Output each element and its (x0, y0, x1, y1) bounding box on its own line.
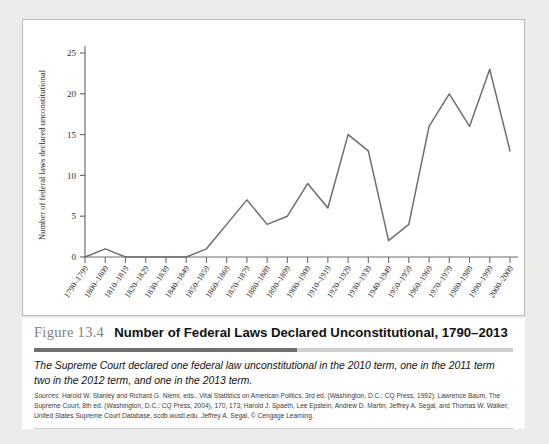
sources-text: Harold W. Stanley and Richard G. Niemi, … (34, 392, 509, 419)
y-axis-title-text: Number of federal laws declared unconsti… (37, 69, 47, 240)
y-tick-label: 15 (67, 130, 77, 140)
figure-heading: Figure 13.4 Number of Federal Laws Decla… (22, 318, 525, 344)
series-line (85, 69, 510, 257)
figure-title: Number of Federal Laws Declared Unconsti… (114, 325, 508, 342)
y-tick-label: 10 (67, 171, 77, 181)
y-tick-label: 25 (67, 48, 77, 58)
figure-note: The Supreme Court declared one federal l… (22, 352, 525, 390)
y-axis: 0510152025 (67, 46, 85, 262)
y-tick-label: 5 (72, 211, 77, 221)
figure-sources: Sources: Harold W. Stanley and Richard G… (22, 390, 525, 428)
figure-page: 0510152025 1790–17991800–18091810–181918… (0, 0, 549, 444)
data-series-line (85, 69, 510, 257)
sources-prefix: Sources: (34, 392, 60, 399)
y-axis-title: Number of federal laws declared unconsti… (37, 69, 47, 240)
figure-caption-block: Figure 13.4 Number of Federal Laws Decla… (22, 318, 525, 429)
figure-number: Figure 13.4 (34, 324, 104, 341)
y-tick-label: 0 (72, 252, 77, 262)
y-tick-label: 20 (67, 89, 77, 99)
line-chart: 0510152025 1790–17991800–18091810–181918… (23, 20, 524, 315)
caption-bottom-rule (34, 428, 513, 429)
chart-panel: 0510152025 1790–17991800–18091810–181918… (22, 19, 525, 316)
x-axis: 1790–17991800–18091810–18191820–18291830… (62, 257, 518, 300)
